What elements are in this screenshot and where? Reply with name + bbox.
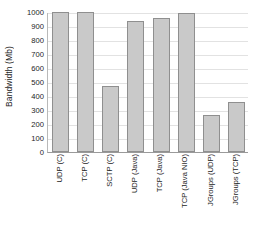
y-tick-label: 1000 <box>14 9 44 17</box>
bar <box>203 115 220 152</box>
y-tick-label: 300 <box>14 107 44 115</box>
y-tick-label: 500 <box>14 79 44 87</box>
y-tick-label: 700 <box>14 51 44 59</box>
x-axis-tick-labels: UDP (C)TCP (C)SCTP (C)UDP (Java)TCP (Jav… <box>47 154 248 236</box>
bar <box>178 13 195 152</box>
y-axis-tick-labels: 01002003004005006007008009001000 <box>14 13 44 153</box>
y-tick-label: 0 <box>14 149 44 157</box>
x-tick-label-text: UDP (C) <box>56 154 64 183</box>
x-tick-label-text: JGroups (UDP) <box>207 154 215 206</box>
bandwidth-bar-chart: Bandwidth (Mb) 0100200300400500600700800… <box>0 0 266 236</box>
y-tick-label: 800 <box>14 37 44 45</box>
x-tick-label: UDP (C) <box>53 154 67 234</box>
x-tick-label-text: UDP (Java) <box>131 154 139 193</box>
x-tick-label: TCP (Java NIO) <box>178 154 192 234</box>
x-tick-label: TCP (Java) <box>153 154 167 234</box>
plot-area <box>47 13 248 153</box>
bar <box>228 102 245 152</box>
y-tick-label: 400 <box>14 93 44 101</box>
x-tick-label: TCP (C) <box>78 154 92 234</box>
y-tick-label: 100 <box>14 135 44 143</box>
x-tick-label: JGroups (TCP) <box>228 154 242 234</box>
x-tick-label-text: SCTP (C) <box>106 154 114 187</box>
bar <box>127 21 144 152</box>
x-tick-label: JGroups (UDP) <box>203 154 217 234</box>
y-tick-label: 900 <box>14 23 44 31</box>
y-axis-title-text: Bandwidth (Mb) <box>4 46 14 107</box>
bars-group <box>48 13 248 152</box>
bar <box>153 18 170 152</box>
x-tick-label: SCTP (C) <box>103 154 117 234</box>
x-tick-label-text: TCP (Java NIO) <box>181 154 189 208</box>
bar <box>52 12 69 152</box>
bar <box>102 86 119 152</box>
y-tick-label: 200 <box>14 121 44 129</box>
x-tick-label-text: JGroups (TCP) <box>232 154 240 205</box>
bar <box>77 12 94 152</box>
x-tick-label: UDP (Java) <box>128 154 142 234</box>
x-tick-label-text: TCP (C) <box>81 154 89 182</box>
y-tick-label: 600 <box>14 65 44 73</box>
x-tick-label-text: TCP (Java) <box>156 154 164 192</box>
